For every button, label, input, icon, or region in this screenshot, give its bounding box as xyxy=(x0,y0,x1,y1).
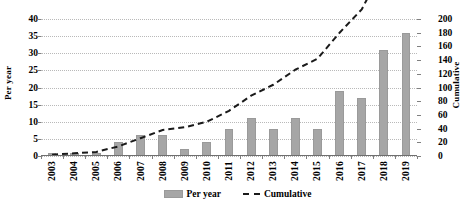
y-axis-right-tick-label: 80 xyxy=(438,96,464,106)
y-axis-right-tickmark xyxy=(417,46,421,47)
y-axis-right-tickmark xyxy=(417,19,421,20)
y-axis-right-tickmark xyxy=(417,129,421,130)
y-axis-left-ticks: 0510152025303540 xyxy=(12,14,38,156)
chart-container: Per year Cumulative 0510152025303540 020… xyxy=(0,0,475,206)
y-axis-right-tick-label: 60 xyxy=(438,110,464,120)
x-axis-tickmark xyxy=(417,156,418,159)
y-axis-left-tick-label: 20 xyxy=(12,83,38,93)
y-axis-right-tickmark xyxy=(417,142,421,143)
legend-label-per-year: Per year xyxy=(187,189,221,199)
x-axis-labels: 2003200420052006200720082009201020112012… xyxy=(41,157,417,185)
y-axis-right-tickmark xyxy=(417,60,421,61)
legend-swatch-line-icon xyxy=(243,193,260,195)
y-axis-right-tick-label: 160 xyxy=(438,41,464,51)
x-axis-line xyxy=(41,155,417,156)
plot-area xyxy=(41,19,417,156)
y-axis-right-tick-label: 20 xyxy=(438,137,464,147)
y-axis-right-tickmark xyxy=(417,88,421,89)
y-axis-right-tick-label: 0 xyxy=(438,151,464,161)
y-axis-left-tick-label: 5 xyxy=(12,134,38,144)
legend-label-cumulative: Cumulative xyxy=(264,189,312,199)
legend-item-cumulative: Cumulative xyxy=(243,189,312,199)
y-axis-right-tick-label: 180 xyxy=(438,28,464,38)
y-axis-right-tickmark xyxy=(417,33,421,34)
legend-item-per-year: Per year xyxy=(164,189,221,199)
y-axis-right-tickmark xyxy=(417,101,421,102)
y-axis-left-tick-label: 35 xyxy=(12,31,38,41)
y-axis-right-tickmark xyxy=(417,74,421,75)
y-axis-left-tick-label: 15 xyxy=(12,100,38,110)
y-axis-right-tickmark xyxy=(417,115,421,116)
chart-legend: Per year Cumulative xyxy=(0,186,475,202)
x-axis-tick-label: 2019 xyxy=(392,157,420,185)
y-axis-left-tick-label: 10 xyxy=(12,117,38,127)
y-axis-right-tick-label: 140 xyxy=(438,55,464,65)
x-axis-tickmark xyxy=(41,156,42,159)
y-axis-right-tick-label: 120 xyxy=(438,69,464,79)
line-series-cumulative xyxy=(41,19,417,156)
y-axis-left-tick-label: 25 xyxy=(12,65,38,75)
y-axis-right-tick-label: 200 xyxy=(438,14,464,24)
y-axis-right-tick-label: 40 xyxy=(438,124,464,134)
legend-swatch-bar-icon xyxy=(164,190,183,198)
y-axis-left-tick-label: 40 xyxy=(12,14,38,24)
y-axis-right-ticks: 020406080100120140160180200 xyxy=(438,14,464,156)
y-axis-left-tick-label: 0 xyxy=(12,151,38,161)
y-axis-right-tick-label: 100 xyxy=(438,83,464,93)
y-axis-left-tick-label: 30 xyxy=(12,48,38,58)
